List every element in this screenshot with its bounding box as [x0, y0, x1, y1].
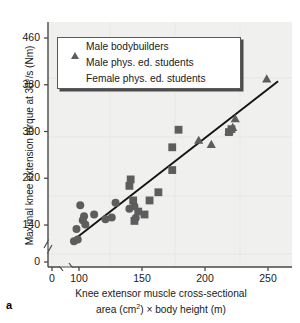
x-axis-tick-label: 200 [188, 272, 222, 284]
data-point-square [175, 126, 183, 134]
data-point-square [127, 176, 135, 184]
scatter-chart-figure: Maximal knee extension torque at 30°/s (… [0, 0, 300, 323]
y-axis-tick-label: 380 [6, 78, 40, 90]
data-point-square [146, 197, 154, 205]
y-axis-tick-label: 220 [6, 171, 40, 183]
data-point-square [168, 166, 176, 174]
data-point-circle [112, 199, 120, 207]
legend-item-female-phys-ed: Female phys. ed. students [58, 70, 240, 86]
data-point-square [228, 125, 236, 133]
data-point-square [141, 211, 149, 219]
data-point-circle [132, 214, 140, 222]
y-axis-tick-label: 0 [6, 255, 40, 267]
legend-label-2: Female phys. ed. students [86, 73, 205, 84]
panel-letter: a [6, 299, 12, 311]
chart-legend: Male bodybuilders Male phys. ed. student… [57, 37, 241, 89]
triangle-icon [68, 41, 82, 52]
x-axis-tick-label: 150 [125, 272, 159, 284]
legend-item-male-bodybuilders: Male bodybuilders [58, 38, 240, 54]
x-axis-label: Knee extensor muscle cross-sectional are… [36, 288, 286, 316]
data-point-circle [80, 212, 88, 220]
legend-item-male-phys-ed: Male phys. ed. students [58, 54, 240, 70]
data-point-circle [90, 210, 98, 218]
data-point-circle [81, 220, 89, 228]
x-axis-tick-label: 100 [62, 272, 96, 284]
data-point-circle [108, 213, 116, 221]
data-point-circle [74, 236, 82, 244]
x-axis-label-line2-post: ) × body height (m) [140, 304, 226, 315]
y-axis-tick-label: 300 [6, 125, 40, 137]
x-axis-label-line1: Knee extensor muscle cross-sectional [75, 288, 247, 299]
y-axis-tick-label: 140 [6, 218, 40, 230]
y-axis-tick-label: 460 [6, 31, 40, 43]
data-point-circle [130, 202, 138, 210]
data-point-square [154, 188, 162, 196]
x-axis-label-line2-pre: area (cm [96, 304, 136, 315]
legend-label-0: Male bodybuilders [86, 41, 169, 52]
data-point-circle [76, 201, 84, 209]
data-point-circle [72, 225, 80, 233]
legend-label-1: Male phys. ed. students [86, 57, 194, 68]
x-axis-tick-label: 250 [251, 272, 285, 284]
data-point-square [168, 143, 176, 151]
